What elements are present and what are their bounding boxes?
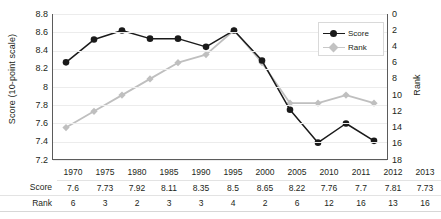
table-cell: 4 xyxy=(217,196,249,212)
left-axis-tick-label: 7.6 xyxy=(14,119,48,128)
table-corner-cell xyxy=(0,165,57,180)
table-cell: 7.73 xyxy=(89,180,121,196)
score-series-icon xyxy=(323,28,345,39)
gridline xyxy=(53,123,387,124)
data-point-rank-1980 xyxy=(118,92,125,99)
table-cell: 16 xyxy=(345,196,377,212)
legend-label-rank: Rank xyxy=(348,43,367,52)
table-header-year: 1975 xyxy=(89,165,121,180)
right-axis-tick-label: 10 xyxy=(392,91,402,100)
table-row-label: Rank xyxy=(0,196,57,212)
left-axis-tick-label: 8.4 xyxy=(14,46,48,55)
table-body: Score7.67.737.928.118.358.58.658.227.767… xyxy=(0,180,441,211)
chart-legend: Score Rank xyxy=(318,22,384,56)
table-cell: 6 xyxy=(57,196,89,212)
left-axis-tick-label: 7.8 xyxy=(14,101,48,110)
table-cell: 3 xyxy=(153,196,185,212)
gridline xyxy=(53,105,387,106)
data-point-score-1975 xyxy=(91,36,98,43)
right-axis-tick-label: 0 xyxy=(392,10,397,19)
legend-label-score: Score xyxy=(348,29,369,38)
data-point-score-1990 xyxy=(175,35,182,42)
right-axis-tick-label: 14 xyxy=(392,123,402,132)
table-cell: 8.35 xyxy=(185,180,217,196)
gridline xyxy=(53,142,387,143)
table-cell: 7.76 xyxy=(313,180,345,196)
data-point-rank-1990 xyxy=(174,59,181,66)
data-point-rank-1970 xyxy=(62,124,69,131)
legend-item-score: Score xyxy=(323,26,379,40)
table-cell: 12 xyxy=(313,196,345,212)
data-point-score-1985 xyxy=(147,35,154,42)
data-point-score-1970 xyxy=(63,59,70,66)
right-axis-tick-label: 18 xyxy=(392,156,402,165)
table-row-label: Score xyxy=(0,180,57,196)
gridline xyxy=(53,69,387,70)
data-point-rank-1985 xyxy=(146,75,153,82)
gridline xyxy=(53,14,387,15)
data-point-rank-1975 xyxy=(90,108,97,115)
table-header-year: 2012 xyxy=(377,165,409,180)
right-axis-tick-label: 6 xyxy=(392,58,397,67)
left-axis-tick-label: 7.2 xyxy=(14,156,48,165)
table-cell: 7.6 xyxy=(57,180,89,196)
table-cell: 8.65 xyxy=(249,180,281,196)
right-axis-tick-label: 12 xyxy=(392,107,402,116)
table-header-year: 1985 xyxy=(153,165,185,180)
left-axis-tick-label: 8 xyxy=(14,83,48,92)
table-header-year: 2011 xyxy=(345,165,377,180)
table-header-year: 2000 xyxy=(249,165,281,180)
table-cell: 7.73 xyxy=(409,180,441,196)
table-cell: 8.11 xyxy=(153,180,185,196)
right-axis-tick-label: 16 xyxy=(392,139,402,148)
rank-series-icon xyxy=(323,42,345,53)
table-cell: 6 xyxy=(281,196,313,212)
left-axis-tick-label: 8.6 xyxy=(14,28,48,37)
table-cell: 3 xyxy=(89,196,121,212)
table-cell: 7.92 xyxy=(121,180,153,196)
data-table: 1970197519801985199019952000200520102011… xyxy=(0,165,441,212)
right-axis-tick-label: 2 xyxy=(392,26,397,35)
table-cell: 8.22 xyxy=(281,180,313,196)
table-header-year: 2005 xyxy=(281,165,313,180)
table-header-year: 2013 xyxy=(409,165,441,180)
table-header-year: 1980 xyxy=(121,165,153,180)
table-cell: 2 xyxy=(121,196,153,212)
legend-item-rank: Rank xyxy=(323,40,379,54)
left-axis-tick-label: 8.2 xyxy=(14,64,48,73)
table-cell: 13 xyxy=(377,196,409,212)
table-cell: 8.5 xyxy=(217,180,249,196)
table-cell: 3 xyxy=(185,196,217,212)
left-axis-tick-label: 8.8 xyxy=(14,10,48,19)
table-header-year: 1970 xyxy=(57,165,89,180)
table-header-row: 1970197519801985199019952000200520102011… xyxy=(0,165,441,180)
table-header-year: 2010 xyxy=(313,165,345,180)
table-cell: 2 xyxy=(249,196,281,212)
data-point-score-1995 xyxy=(203,44,210,51)
gridline xyxy=(53,87,387,88)
left-axis-tick-label: 7.4 xyxy=(14,137,48,146)
table-cell: 7.7 xyxy=(345,180,377,196)
gridline xyxy=(53,160,387,161)
data-point-score-2010 xyxy=(287,107,294,114)
table-row: Rank6323342612161316 xyxy=(0,196,441,212)
chart-figure: Score (10-point scale) Rank 8.88.68.48.2… xyxy=(0,0,441,219)
data-point-score-2005 xyxy=(259,57,266,64)
right-axis-tick-label: 4 xyxy=(392,42,397,51)
table-header-year: 1990 xyxy=(185,165,217,180)
data-point-rank-2012 xyxy=(342,92,349,99)
table-cell: 16 xyxy=(409,196,441,212)
table-row: Score7.67.737.928.118.358.58.658.227.767… xyxy=(0,180,441,196)
right-axis-tick-label: 8 xyxy=(392,74,397,83)
data-point-score-2013 xyxy=(371,138,378,145)
table-header-year: 1995 xyxy=(217,165,249,180)
table-cell: 7.81 xyxy=(377,180,409,196)
